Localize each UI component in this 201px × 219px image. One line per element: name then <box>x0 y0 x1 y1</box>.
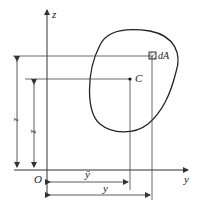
zbar-dimension-label: z̄ <box>29 129 39 134</box>
dA-element <box>149 52 156 59</box>
y-axis-label: y <box>183 173 189 185</box>
centroid-label: C <box>135 72 143 84</box>
origin-label: O <box>34 173 42 185</box>
dA-label: dA <box>158 50 170 61</box>
z-dimension-label: z <box>12 117 22 122</box>
area-boundary <box>90 29 179 131</box>
y-dimension-label: y <box>102 182 108 194</box>
z-axis-label: z <box>51 8 57 20</box>
centroid-point <box>128 77 131 80</box>
centroid-diagram: z y O z z̄ ȳ y C dA <box>0 0 201 219</box>
